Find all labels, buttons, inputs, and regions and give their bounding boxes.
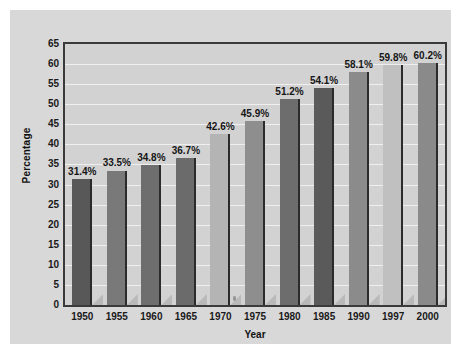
- bar[interactable]: [418, 63, 438, 305]
- bar-shadow: [92, 294, 103, 305]
- bar-body: [383, 65, 403, 305]
- bar[interactable]: [349, 72, 369, 305]
- bar-value-label: 36.7%: [162, 145, 210, 156]
- bar-value-label: 54.1%: [300, 75, 348, 86]
- bar[interactable]: [314, 88, 334, 305]
- x-axis-title: Year: [63, 329, 447, 340]
- bar[interactable]: [141, 165, 161, 305]
- bar-shadow: [196, 294, 207, 305]
- y-axis-tick-label: 5: [13, 280, 59, 290]
- y-axis-tick-label: 25: [13, 200, 59, 210]
- y-axis-tick-label: 10: [13, 260, 59, 270]
- bar-body: [280, 99, 300, 305]
- bar-chart-figure: 65605550454035302520151050 Percentage 31…: [0, 0, 462, 355]
- scan-speck: [233, 296, 236, 301]
- y-axis-tick-labels: 65605550454035302520151050: [10, 42, 59, 307]
- bar-shadow: [334, 294, 345, 305]
- bar-body: [210, 134, 230, 305]
- y-axis-tick-label: 15: [13, 240, 59, 250]
- bar-body: [72, 179, 92, 305]
- y-axis-tick-label: 60: [13, 59, 59, 69]
- plot-area: 31.4%33.5%34.8%36.7%42.6%45.9%51.2%54.1%…: [63, 42, 447, 307]
- bar-body: [349, 72, 369, 305]
- bar-shadow: [161, 294, 172, 305]
- bar-body: [141, 165, 161, 305]
- bar-shadow: [265, 294, 276, 305]
- bar-shadow: [300, 294, 311, 305]
- x-axis-tick-label: 2000: [406, 311, 450, 323]
- bar-body: [245, 121, 265, 305]
- bar-value-label: 45.9%: [231, 108, 279, 119]
- y-axis-title: Percentage: [21, 111, 32, 201]
- bar[interactable]: [280, 99, 300, 305]
- bar-shadow: [403, 294, 414, 305]
- figure-frame: 65605550454035302520151050 Percentage 31…: [10, 10, 451, 344]
- bar[interactable]: [107, 171, 127, 306]
- bar[interactable]: [245, 121, 265, 305]
- bar-body: [107, 171, 127, 306]
- bar[interactable]: [383, 65, 403, 305]
- bar-shadow: [127, 294, 138, 305]
- y-axis-tick-label: 20: [13, 220, 59, 230]
- bar[interactable]: [176, 158, 196, 305]
- y-axis-tick-label: 0: [13, 300, 59, 310]
- bar-value-label: 42.6%: [196, 121, 244, 132]
- y-axis-tick-label: 65: [13, 39, 59, 49]
- x-axis-tick-labels: 1950195519601965197019751980198519901997…: [63, 311, 447, 327]
- bar-body: [418, 63, 438, 305]
- bar-value-label: 60.2%: [404, 50, 447, 61]
- bar-shadow: [369, 294, 380, 305]
- bar-value-label: 51.2%: [266, 86, 314, 97]
- y-axis-tick-label: 50: [13, 99, 59, 109]
- bar-shadow: [438, 294, 447, 305]
- bar-body: [314, 88, 334, 305]
- y-axis-tick-label: 55: [13, 79, 59, 89]
- bar-body: [176, 158, 196, 305]
- bar[interactable]: [72, 179, 92, 305]
- bar[interactable]: [210, 134, 230, 305]
